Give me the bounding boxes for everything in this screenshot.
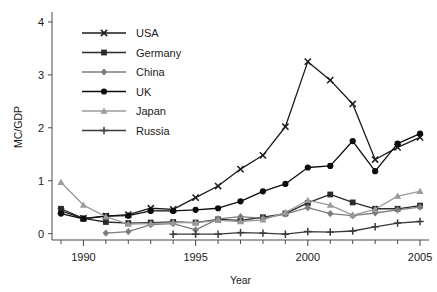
data-point-circle xyxy=(350,138,356,144)
legend-label-japan: Japan xyxy=(136,105,166,117)
data-point-circle xyxy=(193,207,199,213)
line-chart: 012341990199520002005YearMC/GDPUSAGerman… xyxy=(0,0,437,292)
series-usa xyxy=(58,59,423,222)
data-point-plus xyxy=(100,127,107,134)
data-point-x xyxy=(193,195,199,201)
data-point-plus xyxy=(394,219,401,226)
data-point-circle xyxy=(417,131,423,137)
data-point-plus xyxy=(237,229,244,236)
legend-item-usa[interactable]: USA xyxy=(82,27,159,39)
legend-label-usa: USA xyxy=(136,27,159,39)
legend-item-japan[interactable]: Japan xyxy=(82,105,166,117)
x-tick-label: 1995 xyxy=(183,251,207,263)
data-point-plus xyxy=(192,230,199,237)
chart-legend: USAGermanyChinaUKJapanRussia xyxy=(82,27,182,137)
data-point-circle xyxy=(170,208,176,214)
data-point-plus xyxy=(304,228,311,235)
data-point-plus xyxy=(282,230,289,237)
data-point-square xyxy=(327,192,333,198)
data-point-diamond xyxy=(125,228,132,235)
y-tick-label: 0 xyxy=(38,228,44,240)
data-point-circle xyxy=(305,164,311,170)
data-point-x xyxy=(305,59,311,65)
data-point-plus xyxy=(214,230,221,237)
data-point-triangle xyxy=(57,179,64,185)
x-axis-ticks: 1990199520002005 xyxy=(61,240,432,263)
axes xyxy=(52,12,429,240)
legend-label-russia: Russia xyxy=(136,125,171,137)
data-point-circle xyxy=(394,141,400,147)
x-tick-label: 1990 xyxy=(71,251,95,263)
data-point-plus xyxy=(416,218,423,225)
data-point-plus xyxy=(169,230,176,237)
data-point-circle xyxy=(260,188,266,194)
data-point-circle xyxy=(282,181,288,187)
legend-item-russia[interactable]: Russia xyxy=(82,125,171,137)
data-point-square xyxy=(103,219,109,225)
x-tick-label: 2005 xyxy=(408,251,432,263)
data-point-diamond xyxy=(101,68,108,75)
data-point-triangle xyxy=(304,197,311,203)
data-point-x xyxy=(260,152,266,158)
y-tick-label: 1 xyxy=(38,175,44,187)
data-point-circle xyxy=(215,205,221,211)
y-axis-ticks: 01234 xyxy=(38,16,52,240)
legend-item-china[interactable]: China xyxy=(82,66,166,78)
y-tick-label: 3 xyxy=(38,69,44,81)
data-point-diamond xyxy=(327,210,334,217)
legend-label-uk: UK xyxy=(136,86,152,98)
data-point-triangle xyxy=(417,188,424,194)
data-point-x xyxy=(327,77,333,83)
data-point-circle xyxy=(80,216,86,222)
data-point-circle xyxy=(125,213,131,219)
data-point-x xyxy=(237,166,243,172)
data-point-circle xyxy=(101,88,107,94)
data-point-circle xyxy=(237,198,243,204)
data-point-diamond xyxy=(103,230,110,237)
legend-item-germany[interactable]: Germany xyxy=(82,47,182,59)
y-axis-title: MC/GDP xyxy=(12,106,24,148)
data-point-x xyxy=(350,101,356,107)
data-point-circle xyxy=(148,208,154,214)
data-point-plus xyxy=(327,228,334,235)
y-tick-label: 4 xyxy=(38,16,44,28)
legend-label-china: China xyxy=(136,66,166,78)
series-line-usa xyxy=(61,62,420,219)
chart-figure: 012341990199520002005YearMC/GDPUSAGerman… xyxy=(0,0,437,292)
x-axis-title: Year xyxy=(230,274,252,286)
legend-item-uk[interactable]: UK xyxy=(82,86,152,98)
data-point-plus xyxy=(371,223,378,230)
x-tick-label: 2000 xyxy=(296,251,320,263)
data-point-x xyxy=(372,156,378,162)
y-tick-label: 2 xyxy=(38,122,44,134)
data-point-circle xyxy=(372,168,378,174)
data-point-plus xyxy=(259,229,266,236)
data-point-plus xyxy=(349,227,356,234)
data-point-x xyxy=(215,183,221,189)
data-point-square xyxy=(350,200,356,206)
data-point-x xyxy=(282,124,288,130)
legend-label-germany: Germany xyxy=(136,47,182,59)
data-point-circle xyxy=(58,210,64,216)
data-point-square xyxy=(101,50,107,56)
data-point-circle xyxy=(327,163,333,169)
